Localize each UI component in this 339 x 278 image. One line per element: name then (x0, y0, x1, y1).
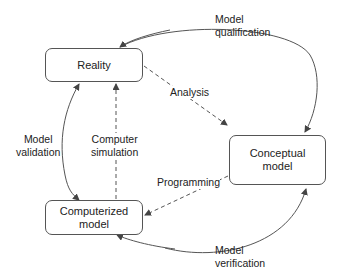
label-computer-simulation-1: Computer (91, 133, 138, 146)
label-computer-simulation-2: simulation (91, 146, 138, 159)
model-qualification-arrow (120, 29, 317, 132)
label-model-qualification-1: Model (215, 13, 270, 26)
label-model-validation: Model validation (16, 133, 60, 159)
node-computerized-model: Computerized model (45, 200, 143, 235)
label-model-validation-1: Model (16, 133, 60, 146)
node-computerized-label-2: model (79, 218, 109, 231)
label-computer-simulation: Computer simulation (91, 133, 138, 159)
model-validation-arrow (62, 84, 79, 175)
label-programming: Programming (157, 176, 220, 189)
label-model-verification-1: Model (215, 244, 265, 257)
label-model-verification-2: verification (215, 257, 265, 270)
node-conceptual-label-2: model (263, 160, 293, 173)
label-model-qualification: Model qualification (215, 13, 270, 39)
node-conceptual-model: Conceptual model (229, 135, 326, 185)
label-model-qualification-2: qualification (215, 26, 270, 39)
label-analysis: Analysis (170, 86, 209, 99)
label-model-validation-2: validation (16, 146, 60, 159)
node-reality: Reality (45, 48, 143, 82)
node-computerized-label-1: Computerized (60, 205, 128, 218)
label-model-verification: Model verification (215, 244, 265, 270)
node-conceptual-label-1: Conceptual (250, 147, 306, 160)
node-reality-label: Reality (77, 59, 111, 72)
